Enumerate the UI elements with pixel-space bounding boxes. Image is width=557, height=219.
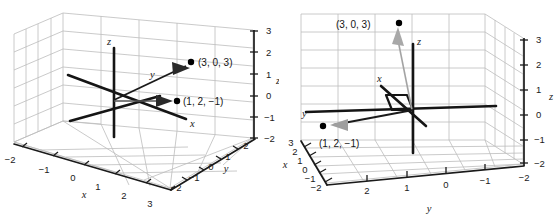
right-ytick-0: 2 xyxy=(364,185,369,196)
right-ytick-3: −1 xyxy=(480,175,491,186)
right-plot-svg: z x y (3, 0, 3) (1, 2, −1) 3 xyxy=(279,0,557,219)
right-zaxis-title: z xyxy=(548,91,553,102)
left-xtick-3: 1 xyxy=(95,181,100,192)
left-xaxis-title: x xyxy=(81,189,87,200)
left-xtick-2: 0 xyxy=(70,172,75,183)
right-yaxis-title: y xyxy=(426,203,432,214)
left-point-label-b: (1, 2, −1) xyxy=(183,96,223,107)
right-point-1-2-m1 xyxy=(320,123,326,129)
right-xtick-5: −2 xyxy=(311,182,322,193)
left-origin-axes xyxy=(68,48,186,137)
right-axis-label-x: x xyxy=(376,73,382,84)
right-ztick-1: 2 xyxy=(536,59,541,70)
left-axis-label-x: x xyxy=(189,118,195,129)
left-xtick-4: 2 xyxy=(121,190,126,201)
figure-root: z y x (3, 0, 3) (1, 2, −1) −2 −1 0 1 2 xyxy=(0,0,557,219)
left-plot-panel: z y x (3, 0, 3) (1, 2, −1) −2 −1 0 1 2 xyxy=(0,0,279,219)
right-ytick-4: −2 xyxy=(519,172,530,183)
left-ztick-0: 3 xyxy=(266,25,271,36)
right-grid-left-wall xyxy=(301,14,485,140)
right-plot-panel: z x y (3, 0, 3) (1, 2, −1) 3 xyxy=(279,0,557,219)
right-point-label-b: (1, 2, −1) xyxy=(319,138,359,149)
left-ytick-1: 1 xyxy=(225,151,230,162)
right-vector-1-2-m1 xyxy=(320,110,413,131)
right-axis-label-y: y xyxy=(301,108,307,119)
right-ytick-1: 1 xyxy=(404,182,409,193)
left-point-1-2-m1 xyxy=(174,98,180,104)
left-xtick-0: −2 xyxy=(5,154,16,165)
right-ytick-2: 0 xyxy=(443,179,448,190)
left-ytick-2: 0 xyxy=(208,161,213,172)
right-origin-axes xyxy=(306,44,496,153)
left-grid-right-wall xyxy=(63,13,253,138)
left-plot-svg: z y x (3, 0, 3) (1, 2, −1) −2 −1 0 1 2 xyxy=(0,0,279,219)
left-ztick-5: −2 xyxy=(264,133,275,144)
right-ztick-2: 1 xyxy=(536,84,541,95)
right-point-3-0-3 xyxy=(396,20,402,26)
right-ztick-4: −1 xyxy=(534,134,545,145)
right-ztick-5: −2 xyxy=(534,158,545,169)
left-ztick-2: 1 xyxy=(266,69,271,80)
left-axis-label-z: z xyxy=(106,36,111,47)
right-ztick-0: 3 xyxy=(536,34,541,45)
right-axis-label-z: z xyxy=(416,36,421,47)
right-point-label-a: (3, 0, 3) xyxy=(336,19,370,30)
right-grid-right-wall xyxy=(485,14,523,164)
left-ztick-4: −1 xyxy=(264,112,275,123)
left-axis-label-y: y xyxy=(149,69,155,80)
left-yaxis-title: y xyxy=(223,163,229,174)
left-ytick-4: −2 xyxy=(171,182,182,193)
left-point-3-0-3 xyxy=(188,59,194,65)
left-xtick-1: −1 xyxy=(39,164,50,175)
left-ytick-3: −1 xyxy=(189,172,200,183)
left-point-label-a: (3, 0, 3) xyxy=(198,57,232,68)
left-ztick-1: 2 xyxy=(266,47,271,58)
left-xtick-5: 3 xyxy=(147,198,152,209)
left-ztick-3: 0 xyxy=(266,90,271,101)
left-ytick-0: 2 xyxy=(243,140,248,151)
left-grid-back-wall xyxy=(14,13,63,142)
right-ztick-3: 0 xyxy=(536,109,541,120)
right-xaxis-title: x xyxy=(282,159,288,170)
right-vector-3-0-3 xyxy=(392,20,412,110)
